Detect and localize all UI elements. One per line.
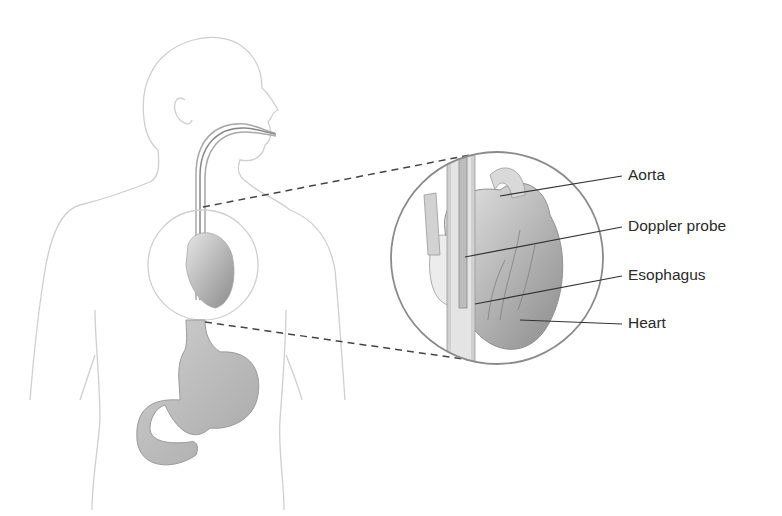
small-heart	[186, 233, 234, 308]
label-esophagus: Esophagus	[628, 266, 706, 284]
label-aorta: Aorta	[628, 166, 665, 184]
label-heart: Heart	[628, 314, 666, 332]
label-doppler-probe: Doppler probe	[628, 217, 726, 235]
stomach	[137, 320, 259, 465]
anatomy-illustration	[0, 0, 782, 516]
